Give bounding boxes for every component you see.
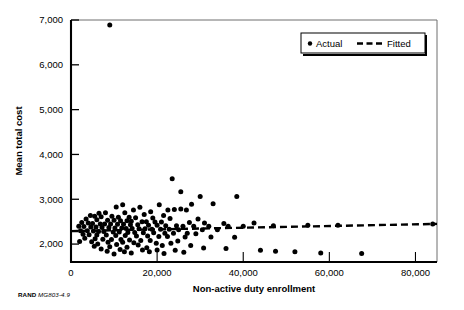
scatter-point (157, 202, 162, 207)
scatter-point (124, 245, 129, 250)
scatter-point (201, 246, 206, 251)
scatter-point (184, 208, 189, 213)
scatter-point (100, 237, 105, 242)
legend-label-fitted: Fitted (387, 38, 411, 49)
scatter-point (165, 234, 170, 239)
scatter-point (359, 251, 364, 256)
scatter-point (154, 241, 159, 246)
scatter-point (92, 244, 97, 249)
scatter-point (161, 213, 166, 218)
scatter-point (318, 251, 323, 256)
scatter-point (234, 194, 239, 199)
scatter-point (87, 232, 92, 237)
scatter-point (162, 251, 167, 256)
scatter-point (178, 189, 183, 194)
y-tick-label: 4,000 (39, 149, 63, 160)
scatter-point (155, 223, 160, 228)
scatter-point (112, 251, 117, 256)
scatter-point (107, 22, 112, 27)
scatter-point (145, 234, 150, 239)
scatter-point (224, 246, 229, 251)
scatter-point (118, 247, 123, 252)
scatter-point (131, 208, 136, 213)
scatter-point (104, 233, 109, 238)
scatter-point (171, 231, 176, 236)
scatter-point (124, 218, 129, 223)
y-tick-label: 6,000 (39, 59, 63, 70)
y-tick-label: 2,000 (39, 238, 63, 249)
legend-box-shadow-right (425, 35, 427, 56)
scatter-point (183, 234, 188, 239)
legend-marker-actual-icon (308, 41, 312, 45)
scatter-point (188, 243, 193, 248)
scatter-point (187, 220, 192, 225)
scatter-plot-figure: 2,0003,0004,0005,0006,0007,000 020,00040… (0, 0, 464, 310)
scatter-point (94, 217, 99, 222)
scatter-point (292, 249, 297, 254)
scatter-point (99, 247, 104, 252)
scatter-point (151, 230, 156, 235)
scatter-point (193, 231, 198, 236)
scatter-point (131, 240, 136, 245)
scatter-point (129, 251, 134, 256)
scatter-point (137, 205, 142, 210)
scatter-point (181, 250, 186, 255)
scatter-point (99, 214, 104, 219)
scatter-point (133, 215, 138, 220)
x-tick-label: 60,000 (315, 267, 344, 278)
scatter-point (134, 234, 139, 239)
scatter-point (173, 248, 178, 253)
scatter-point (105, 249, 110, 254)
legend-box-shadow-bottom (303, 54, 427, 56)
scatter-point (189, 202, 194, 207)
x-tick-label: 20,000 (143, 267, 172, 278)
scatter-point (127, 238, 132, 243)
scatter-point (88, 213, 93, 218)
scatter-point (146, 223, 151, 228)
scatter-point (76, 224, 81, 229)
scatter-point (82, 236, 87, 241)
scatter-point (252, 221, 257, 226)
x-axis-title: Non-active duty enrollment (193, 283, 316, 294)
scatter-point (120, 202, 125, 207)
y-tick-label: 5,000 (39, 104, 63, 115)
scatter-point (123, 233, 128, 238)
scatter-point (141, 230, 146, 235)
scatter-point (159, 220, 164, 225)
scatter-point (112, 218, 117, 223)
scatter-point (136, 242, 141, 247)
scatter-point (77, 239, 82, 244)
scatter-point (140, 247, 145, 252)
scatter-point (122, 210, 127, 215)
scatter-point (178, 207, 183, 212)
scatter-point (120, 240, 125, 245)
scatter-point (147, 249, 152, 254)
scatter-point (138, 238, 143, 243)
scatter-point (165, 208, 170, 213)
x-tick-label: 0 (68, 267, 73, 278)
scatter-point (148, 209, 153, 214)
scatter-point (175, 238, 180, 243)
y-tick-label: 3,000 (39, 194, 63, 205)
y-tick-label: 7,000 (39, 14, 63, 25)
scatter-point (142, 212, 147, 217)
source-note-id: MG803-4.9 (38, 291, 70, 298)
scatter-point (160, 243, 165, 248)
source-note: RAND MG803-4.9 (18, 291, 70, 298)
scatter-point (258, 248, 263, 253)
scatter-point (89, 239, 94, 244)
scatter-point (273, 249, 278, 254)
scatter-point (221, 221, 226, 226)
x-tick-label: 80,000 (401, 267, 430, 278)
scatter-point (113, 233, 118, 238)
scatter-point (114, 204, 119, 209)
chart-legend[interactable]: Actual Fitted (301, 33, 427, 56)
scatter-point (168, 241, 173, 246)
scatter-point (168, 216, 173, 221)
scatter-point (232, 235, 237, 240)
scatter-point (114, 242, 119, 247)
scatter-point (208, 234, 213, 239)
scatter-point (103, 210, 108, 215)
source-note-brand: RAND (18, 291, 36, 298)
scatter-point (148, 238, 153, 243)
